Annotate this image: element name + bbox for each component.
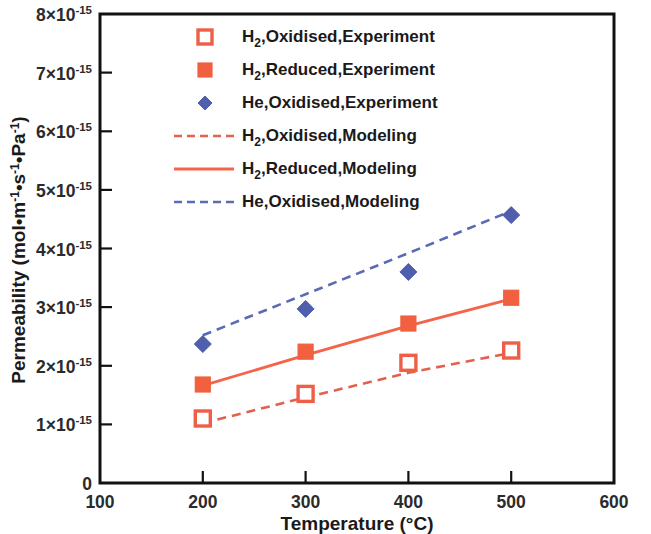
x-tick-label-500: 500 [497,492,526,512]
data-point [195,377,210,392]
x-tick-label-300: 300 [291,492,320,512]
chart-background [0,0,651,534]
data-point [401,355,416,370]
data-point [298,386,313,401]
legend-h2-reduced-experiment-marker [198,63,212,77]
y-tick-label-0: 0 [82,474,92,494]
data-point [195,411,210,426]
legend-he-oxidised-modeling-label: He,Oxidised,Modeling [242,192,420,211]
data-point [504,343,519,358]
data-point [504,290,519,305]
x-tick-label-400: 400 [394,492,423,512]
data-point [401,316,416,331]
x-tick-label-600: 600 [599,492,628,512]
legend-he-oxidised-experiment-label: He,Oxidised,Experiment [242,93,438,112]
y-axis-title: Permeability (mol•m-1•s-1•Pa-1) [8,116,29,383]
chart-svg: 8×10-15 7×10-15 6×10-15 5×10-15 4×10-15 … [0,0,651,534]
data-point [298,344,313,359]
x-tick-label-200: 200 [188,492,217,512]
x-axis-title: Temperature (°C) [281,513,434,534]
legend-h2-oxidised-experiment-marker [198,30,212,44]
permeability-chart-figure: 8×10-15 7×10-15 6×10-15 5×10-15 4×10-15 … [0,0,651,534]
x-tick-label-100: 100 [85,492,114,512]
